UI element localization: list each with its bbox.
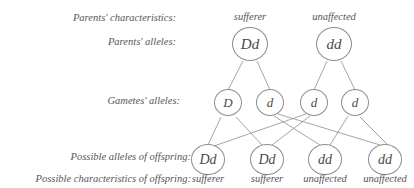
label-offspring-characteristics: Possible characteristics of offspring: — [36, 174, 191, 185]
label-parents-alleles: Parents' alleles: — [108, 37, 176, 48]
link-gamete2-offspring3 — [274, 116, 320, 145]
label-gametes-alleles: Gametes' alleles: — [107, 96, 180, 107]
link-gamete4-offspring4 — [360, 117, 388, 145]
offspring-characteristic-3: unaffected — [291, 174, 359, 185]
link-gamete1-offspring1 — [208, 117, 221, 145]
parent-genotype-1: Dd — [232, 27, 268, 61]
link-parent1-gamete2 — [257, 61, 270, 90]
parent-genotype-2: dd — [316, 27, 352, 61]
link-parent1-gamete1 — [228, 61, 243, 90]
label-offspring-alleles: Possible alleles of offspring: — [71, 152, 191, 163]
link-parent2-gamete4 — [341, 61, 355, 90]
offspring-genotype-3: dd — [308, 144, 342, 175]
offspring-genotype-2: Dd — [250, 144, 284, 175]
gamete-allele-2: d — [256, 89, 284, 116]
offspring-genotype-1: Dd — [191, 144, 225, 175]
link-parent2-gamete3 — [314, 61, 327, 90]
offspring-characteristic-2: sufferer — [239, 174, 295, 185]
offspring-genotype-4: dd — [368, 144, 402, 175]
label-parents-characteristics: Parents' characteristics: — [73, 13, 176, 24]
gamete-allele-1: D — [214, 89, 242, 116]
offspring-characteristic-4: unaffected — [351, 174, 414, 185]
genetic-cross-diagram: Parents' characteristics: Parents' allel… — [0, 0, 414, 188]
parent-characteristic-2: unaffected — [300, 12, 368, 23]
gamete-allele-3: d — [300, 89, 328, 116]
gamete-allele-4: d — [341, 89, 369, 116]
parent-characteristic-1: sufferer — [222, 12, 278, 23]
link-gamete3-offspring2 — [272, 116, 310, 145]
offspring-characteristic-1: sufferer — [180, 174, 236, 185]
